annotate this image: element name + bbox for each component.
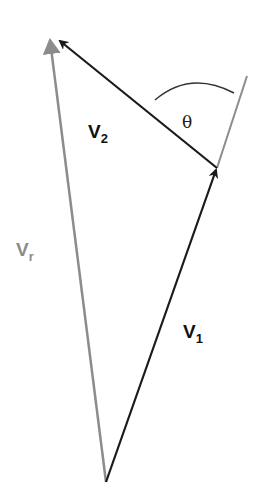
vector-diagram: θ V2 Vr V1: [0, 0, 257, 503]
v1-vector-arrow: [106, 170, 216, 482]
v2-vector-arrow: [60, 41, 217, 168]
theta-label: θ: [182, 112, 192, 132]
vr-vector-arrow: [50, 40, 106, 482]
theta-angle-arc: [155, 83, 234, 100]
vr-label: Vr: [16, 239, 34, 264]
v2-label: V2: [88, 121, 108, 146]
v1-label: V1: [183, 321, 203, 346]
v1-extension-line: [217, 76, 247, 168]
